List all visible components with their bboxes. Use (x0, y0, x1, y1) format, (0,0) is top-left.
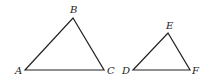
triangle-abc (25, 18, 104, 70)
triangle-def (133, 33, 190, 70)
vertex-label-b: B (69, 4, 77, 15)
vertex-label-f: F (191, 65, 200, 76)
vertex-label-d: D (121, 65, 130, 76)
vertex-label-a: A (14, 65, 22, 76)
vertex-label-c: C (107, 65, 115, 76)
similar-triangles-diagram: A B C D E F (0, 0, 212, 78)
vertex-label-e: E (165, 20, 174, 31)
